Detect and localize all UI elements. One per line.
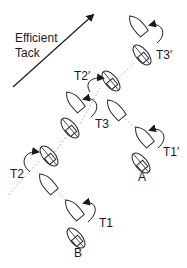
turn-arrow-t3 xyxy=(84,99,97,117)
boat-t3-hull xyxy=(62,89,85,114)
label-t1-prime: T1′ xyxy=(163,145,179,159)
label-t2: T2 xyxy=(10,167,24,181)
label-t2-prime: T2′ xyxy=(74,69,90,83)
boat-t2p-luff xyxy=(99,68,124,94)
turn-arrow-t2 xyxy=(24,152,38,172)
label-a: A xyxy=(138,170,146,184)
title-line1: Efficient xyxy=(15,31,57,45)
title-line2: Tack xyxy=(15,46,40,60)
boat-t3p-hull xyxy=(125,13,148,38)
turn-arrow-t3p xyxy=(150,25,163,43)
boat-t1p-hull xyxy=(131,124,154,149)
label-b: B xyxy=(74,246,82,260)
boat-t2-luff xyxy=(37,143,62,169)
tacking-diagram: Efficient Tack T3′ T2′ T3 T1′ A T2 T1 B xyxy=(0,0,187,268)
boat-t2-hull xyxy=(35,171,58,196)
label-t3: T3 xyxy=(95,117,109,131)
boat-t3-luff xyxy=(58,115,83,141)
label-t1: T1 xyxy=(99,216,113,230)
label-t3-prime: T3′ xyxy=(156,48,172,62)
turn-arrow-t1 xyxy=(84,203,95,222)
